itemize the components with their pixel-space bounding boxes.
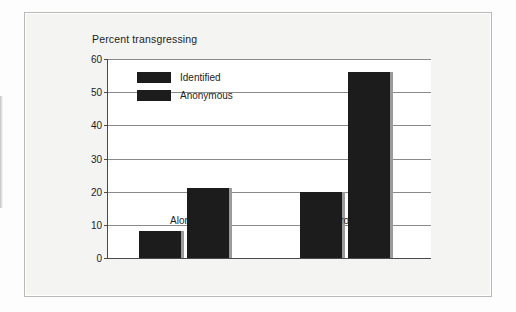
legend-item-identified: Identified: [137, 72, 233, 83]
legend-label-anonymous: Anonymous: [180, 90, 233, 101]
legend-swatch-identified: [137, 72, 171, 83]
y-tick-label-30: 30: [91, 153, 102, 164]
y-tick-label-60: 60: [91, 54, 102, 65]
y-tick-mark-0: [104, 258, 108, 259]
y-tick-mark-20: [104, 192, 108, 193]
x-tick-label-alone: Alone: [170, 215, 196, 226]
y-tick-mark-50: [104, 92, 108, 93]
y-tick-label-40: 40: [91, 120, 102, 131]
scanned-page: Percent transgressing 0102030405060 Iden…: [0, 0, 516, 312]
gridline-60: [108, 59, 431, 60]
y-tick-label-10: 10: [91, 219, 102, 230]
chart-legend: Identified Anonymous: [137, 72, 233, 101]
bar-chart: Percent transgressing 0102030405060 Iden…: [24, 12, 490, 295]
chart-title: Percent transgressing: [92, 33, 197, 45]
y-tick-label-50: 50: [91, 87, 102, 98]
y-tick-mark-60: [104, 59, 108, 60]
legend-item-anonymous: Anonymous: [137, 90, 233, 101]
y-tick-label-20: 20: [91, 186, 102, 197]
y-tick-mark-40: [104, 125, 108, 126]
bar-in-groups-anonymous: [348, 72, 390, 258]
legend-label-identified: Identified: [180, 72, 221, 83]
x-tick-label-in-groups: In groups: [324, 215, 366, 226]
y-tick-label-0: 0: [96, 253, 102, 264]
bar-alone-identified: [139, 231, 181, 258]
y-tick-mark-30: [104, 159, 108, 160]
scan-edge-artifact: [0, 96, 3, 208]
legend-swatch-anonymous: [137, 90, 171, 101]
y-tick-mark-10: [104, 225, 108, 226]
